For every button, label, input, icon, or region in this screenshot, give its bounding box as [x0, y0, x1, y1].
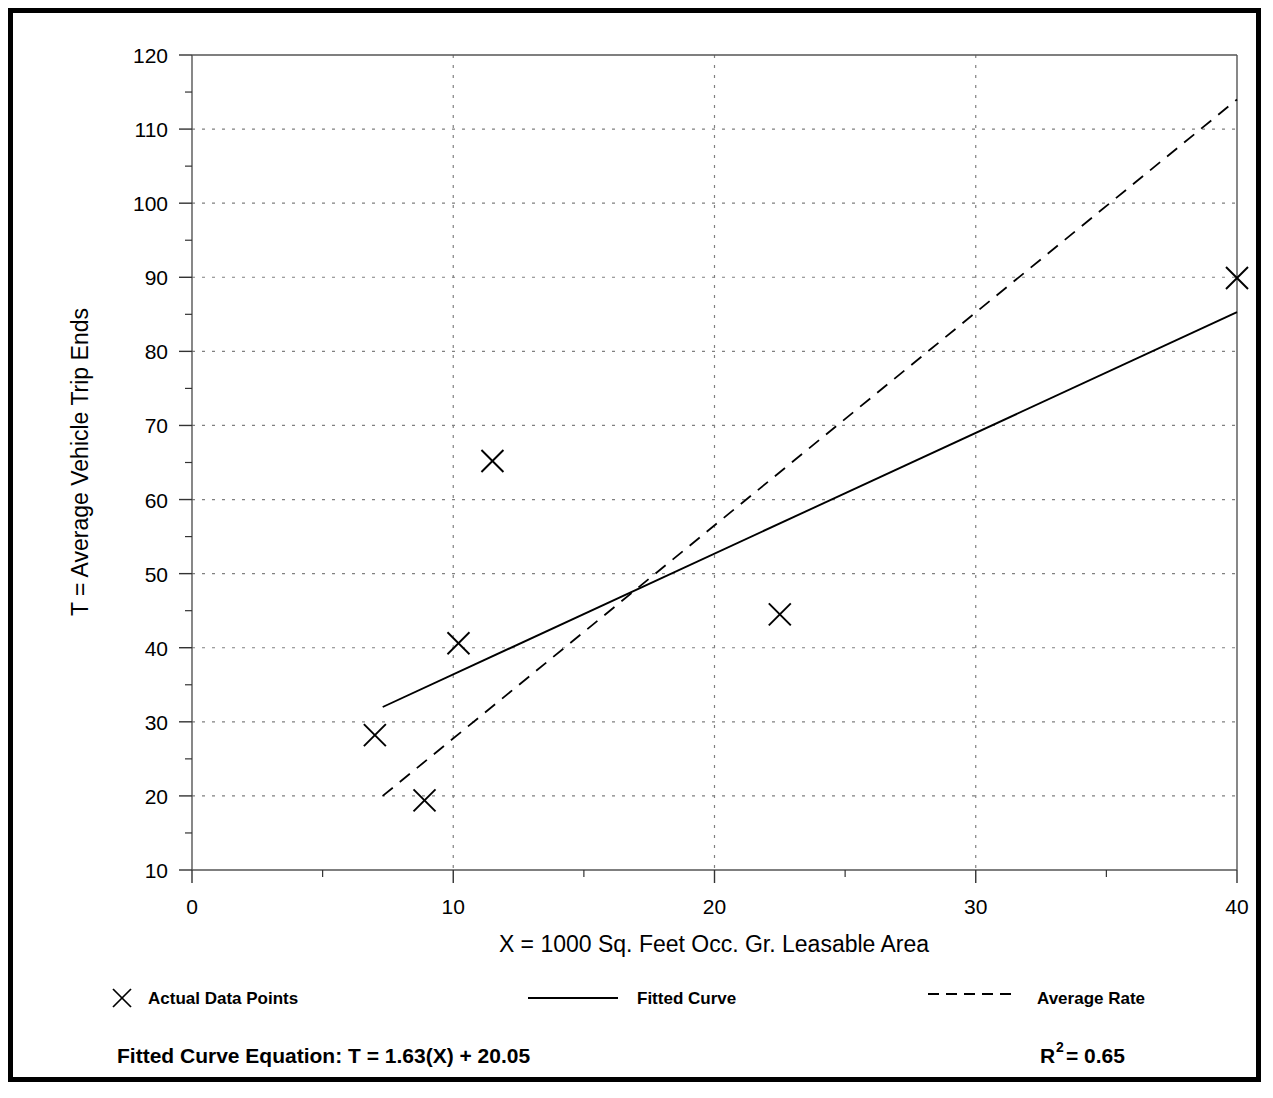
y-tick-label: 30 — [145, 711, 168, 734]
chart-page: 102030405060708090100110120 010203040 T … — [0, 0, 1273, 1098]
legend-label-average-rate: Average Rate — [1037, 989, 1145, 1008]
y-tick-label: 10 — [145, 859, 168, 882]
r-squared-exponent: 2 — [1056, 1039, 1064, 1055]
y-tick-label: 50 — [145, 563, 168, 586]
fitted-curve-equation: Fitted Curve Equation: T = 1.63(X) + 20.… — [117, 1044, 530, 1067]
chart-legend: Actual Data Points Fitted Curve Average … — [113, 989, 1145, 1008]
data-point-x-marker — [481, 450, 503, 472]
y-tick-label: 60 — [145, 489, 168, 512]
r-squared-value: = 0.65 — [1066, 1044, 1125, 1067]
x-axis-title: X = 1000 Sq. Feet Occ. Gr. Leasable Area — [499, 931, 929, 957]
x-tick-label: 20 — [703, 895, 726, 918]
y-tick-label: 90 — [145, 266, 168, 289]
y-axis-tick-labels: 102030405060708090100110120 — [133, 44, 168, 882]
y-tick-label: 40 — [145, 637, 168, 660]
x-tick-label: 30 — [964, 895, 987, 918]
y-tick-label: 80 — [145, 340, 168, 363]
r-squared-base: R — [1040, 1044, 1055, 1067]
trend-line-fitted-curve — [383, 312, 1237, 707]
vertical-gridlines — [453, 55, 976, 870]
data-point-x-marker — [364, 724, 386, 746]
x-axis-ticks — [192, 870, 1237, 883]
x-marker-icon — [113, 989, 131, 1007]
legend-label-fitted-curve: Fitted Curve — [637, 989, 736, 1008]
y-tick-label: 20 — [145, 785, 168, 808]
x-axis-tick-labels: 010203040 — [186, 895, 1249, 918]
y-tick-label: 100 — [133, 192, 168, 215]
trend-line-average-rate — [383, 99, 1237, 795]
legend-item-average-rate: Average Rate — [928, 989, 1145, 1008]
data-point-x-marker — [769, 603, 791, 625]
data-point-x-marker — [447, 632, 469, 654]
legend-item-actual-data-points: Actual Data Points — [113, 989, 298, 1008]
trend-lines — [383, 99, 1237, 795]
legend-item-fitted-curve: Fitted Curve — [528, 989, 736, 1008]
data-point-markers — [364, 267, 1248, 811]
legend-label-actual-data-points: Actual Data Points — [148, 989, 298, 1008]
y-tick-label: 70 — [145, 414, 168, 437]
x-tick-label: 10 — [442, 895, 465, 918]
y-tick-label: 110 — [135, 118, 168, 141]
y-axis-ticks — [179, 55, 192, 870]
data-point-x-marker — [414, 789, 436, 811]
y-tick-label: 120 — [133, 44, 168, 67]
x-tick-label: 0 — [186, 895, 198, 918]
y-axis-title: T = Average Vehicle Trip Ends — [67, 308, 93, 616]
r-squared-annotation: R 2 = 0.65 — [1040, 1039, 1125, 1067]
x-tick-label: 40 — [1225, 895, 1248, 918]
scatter-chart: 102030405060708090100110120 010203040 T … — [0, 0, 1273, 1098]
